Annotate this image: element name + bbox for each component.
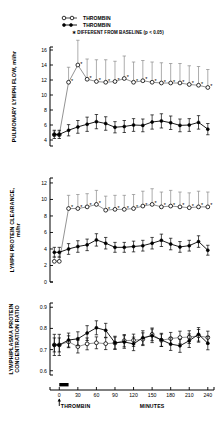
data-point-open — [178, 336, 182, 340]
legend-marker-filled — [70, 24, 73, 27]
y-tick-label: 0.8 — [40, 325, 47, 331]
data-point-filled — [67, 129, 70, 132]
data-point-filled — [169, 343, 172, 346]
data-point-open — [122, 207, 126, 211]
significance-marker: * — [71, 204, 74, 210]
significance-marker: * — [173, 79, 176, 85]
data-point-filled — [95, 120, 98, 123]
data-point-filled — [188, 124, 191, 127]
y-tick-label: 2 — [44, 262, 47, 268]
data-point-filled — [178, 245, 181, 248]
y-axis-line — [50, 178, 53, 282]
data-point-filled — [169, 121, 172, 124]
data-point-open — [141, 79, 145, 83]
data-point-filled — [58, 343, 61, 346]
significance-marker: * — [80, 61, 83, 67]
data-point-open — [197, 205, 201, 209]
data-point-filled — [76, 245, 79, 248]
data-point-filled — [132, 124, 135, 127]
significance-marker: * — [108, 206, 111, 212]
data-point-filled — [169, 243, 172, 246]
y-tick-label: 4 — [44, 246, 47, 252]
x-tick-label: 120 — [129, 392, 138, 398]
data-point-open — [76, 207, 80, 211]
data-point-filled — [178, 124, 181, 127]
x-tick-label: 180 — [166, 392, 175, 398]
data-point-filled — [104, 242, 107, 245]
data-point-filled — [58, 133, 61, 136]
data-point-filled — [160, 338, 163, 341]
data-point-open — [76, 63, 80, 67]
legend-marker-filled — [63, 24, 66, 27]
series-line-open — [54, 204, 207, 261]
data-point-filled — [53, 133, 56, 136]
y-tick-label: 6 — [44, 229, 47, 235]
data-point-filled — [141, 336, 144, 339]
significance-marker: * — [201, 81, 204, 87]
panel-pulmonary-lymph-flow: 46810121416PULMONARY LYMPH FLOW, ml/hr**… — [11, 40, 213, 146]
data-point-open — [67, 80, 71, 84]
multi-panel-chart: 46810121416PULMONARY LYMPH FLOW, ml/hr**… — [0, 0, 222, 428]
data-point-filled — [160, 239, 163, 242]
y-axis-line — [50, 303, 53, 375]
x-tick-label: 150 — [148, 392, 157, 398]
data-point-open — [95, 203, 99, 207]
significance-marker: * — [155, 200, 158, 206]
data-point-open — [178, 205, 182, 209]
figure-container: 46810121416PULMONARY LYMPH FLOW, ml/hr**… — [0, 0, 222, 428]
significance-marker: * — [164, 202, 167, 208]
panel-lymph-protein-clearance: 024681012LYMPH PROTEIN CLEARANCE,ml/hr**… — [9, 178, 213, 285]
y-tick-label: 8 — [44, 107, 47, 113]
x-tick-label: 90 — [112, 392, 118, 398]
data-point-open — [95, 341, 99, 345]
legend-label-open: THROMBIN — [83, 15, 111, 21]
data-point-open — [150, 203, 154, 207]
significance-marker: * — [80, 204, 83, 210]
data-point-open — [85, 205, 89, 209]
y-tick-label: 14 — [41, 62, 47, 68]
data-point-filled — [151, 242, 154, 245]
data-point-filled — [104, 122, 107, 125]
data-point-filled — [188, 339, 191, 342]
data-point-filled — [95, 326, 98, 329]
data-point-open — [132, 80, 136, 84]
legend-label-significance: ∗ DIFFERENT FROM BASELINE (p < 0.05) — [72, 30, 164, 35]
y-tick-label: 6 — [44, 122, 47, 128]
y-tick-label: 10 — [41, 196, 47, 202]
data-point-filled — [53, 343, 56, 346]
significance-marker: * — [90, 75, 93, 81]
data-point-open — [150, 80, 154, 84]
data-point-open — [187, 83, 191, 87]
data-point-open — [159, 81, 163, 85]
data-point-filled — [67, 339, 70, 342]
data-point-open — [178, 81, 182, 85]
data-point-filled — [113, 341, 116, 344]
data-point-filled — [104, 329, 107, 332]
data-point-filled — [178, 344, 181, 347]
data-point-filled — [67, 247, 70, 250]
data-point-filled — [86, 243, 89, 246]
thrombin-label: THROMBIN — [61, 403, 91, 409]
legend-marker-open — [70, 16, 74, 20]
significance-marker: * — [127, 74, 130, 80]
y-axis-title: CONCENTRATION RATIO — [14, 305, 20, 373]
data-point-filled — [123, 125, 126, 128]
data-point-filled — [160, 119, 163, 122]
thrombin-arrow-head — [58, 399, 61, 402]
significance-marker: * — [145, 202, 148, 208]
data-point-filled — [206, 249, 209, 252]
y-tick-label: 12 — [41, 77, 47, 83]
y-axis-line — [50, 47, 53, 146]
data-point-filled — [197, 121, 200, 124]
x-axis-title: MINUTES — [140, 403, 165, 409]
y-tick-label: 12 — [41, 180, 47, 186]
data-point-filled — [206, 128, 209, 131]
data-point-filled — [53, 251, 56, 254]
data-point-open — [159, 205, 163, 209]
data-point-open — [206, 205, 210, 209]
significance-marker: * — [117, 205, 120, 211]
data-point-filled — [197, 240, 200, 243]
data-point-open — [169, 81, 173, 85]
data-point-open — [104, 342, 108, 346]
data-point-open — [113, 80, 117, 84]
